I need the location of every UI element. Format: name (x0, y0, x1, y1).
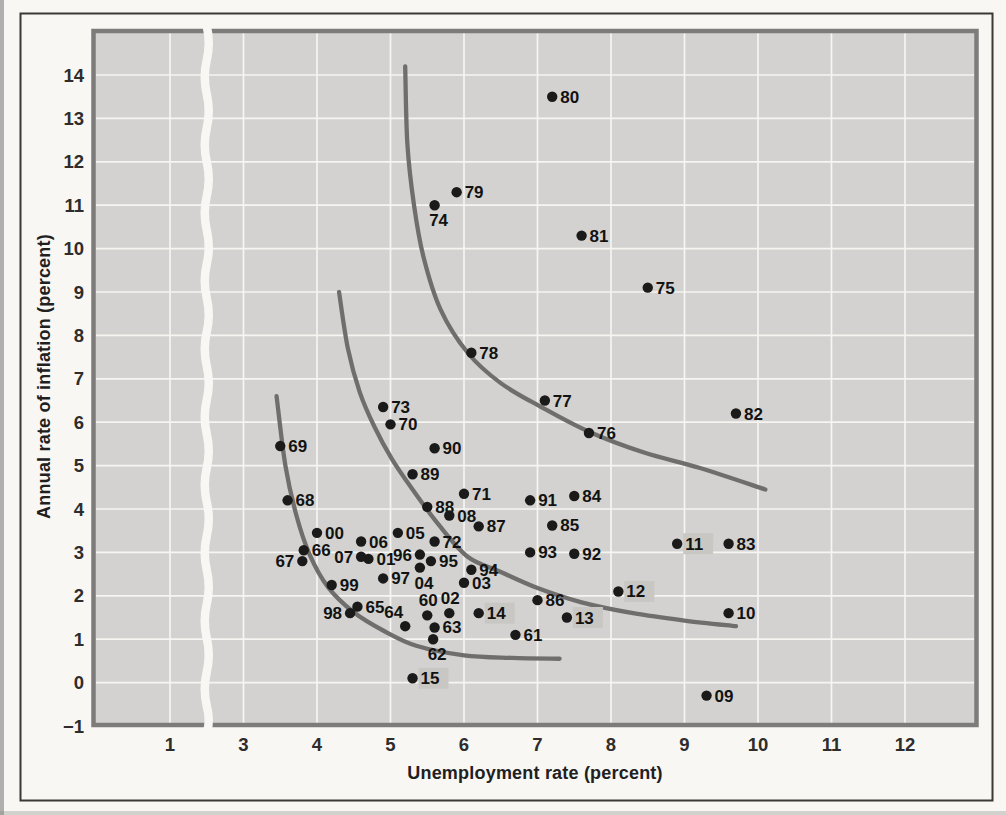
point-label-85: 85 (560, 516, 579, 535)
y-tick-4: 4 (74, 499, 85, 520)
y-tick-2: 2 (74, 585, 84, 606)
point-label-02: 02 (441, 589, 460, 608)
y-tick-3: 3 (74, 542, 84, 563)
data-point-90 (429, 443, 439, 453)
point-label-15: 15 (421, 669, 440, 688)
data-point-62 (428, 634, 438, 644)
point-label-96: 96 (393, 546, 412, 565)
data-point-67 (297, 556, 307, 566)
data-point-04 (415, 562, 425, 572)
point-label-72: 72 (443, 533, 462, 552)
data-point-81 (576, 230, 586, 240)
point-label-66: 66 (312, 541, 331, 560)
point-label-98: 98 (323, 604, 342, 623)
point-label-04: 04 (414, 574, 433, 593)
y-tick-5: 5 (74, 455, 84, 476)
data-point-11 (672, 539, 682, 549)
data-point-85 (547, 520, 557, 530)
y-tick-9: 9 (74, 282, 84, 303)
point-label-65: 65 (365, 598, 384, 617)
data-point-71 (459, 489, 469, 499)
point-label-90: 90 (443, 439, 462, 458)
data-point-66 (299, 545, 309, 555)
point-label-83: 83 (737, 535, 756, 554)
data-point-10 (723, 608, 733, 618)
point-label-08: 08 (457, 507, 476, 526)
data-point-80 (547, 92, 557, 102)
data-point-96 (415, 549, 425, 559)
data-point-64 (400, 621, 410, 631)
y-tick-11: 11 (64, 195, 84, 216)
data-point-13 (562, 612, 572, 622)
x-tick-1: 1 (165, 734, 175, 755)
point-label-69: 69 (288, 437, 307, 456)
point-label-80: 80 (560, 88, 579, 107)
x-tick-4: 4 (312, 734, 323, 755)
data-point-92 (569, 549, 579, 559)
data-point-83 (723, 539, 733, 549)
y-tick-6: 6 (74, 412, 84, 433)
y-tick-10: 10 (63, 238, 84, 259)
y-tick-−1: −1 (63, 716, 84, 737)
point-label-95: 95 (439, 552, 458, 571)
y-tick-14: 14 (63, 65, 84, 86)
data-point-93 (525, 547, 535, 557)
data-point-77 (540, 395, 550, 405)
point-label-01: 01 (376, 550, 395, 569)
data-point-02 (444, 608, 454, 618)
point-label-74: 74 (429, 211, 448, 230)
y-tick-8: 8 (74, 325, 84, 346)
phillips-curve-scatter-chart: 14131211109876543210−1134567891011126061… (0, 0, 1006, 815)
x-tick-10: 10 (748, 734, 769, 755)
x-tick-6: 6 (459, 734, 469, 755)
point-label-60: 60 (419, 591, 438, 610)
data-point-95 (426, 556, 436, 566)
data-point-15 (407, 673, 417, 683)
data-point-06 (356, 536, 366, 546)
x-tick-11: 11 (822, 734, 842, 755)
y-tick-0: 0 (74, 672, 84, 693)
point-label-11: 11 (685, 535, 703, 554)
point-label-05: 05 (406, 524, 425, 543)
data-point-05 (393, 528, 403, 538)
point-label-89: 89 (421, 465, 440, 484)
point-label-97: 97 (391, 569, 410, 588)
point-label-00: 00 (325, 524, 344, 543)
data-point-63 (429, 622, 439, 632)
data-point-09 (701, 690, 711, 700)
data-point-12 (613, 586, 623, 596)
data-point-78 (466, 348, 476, 358)
y-tick-12: 12 (63, 151, 84, 172)
point-label-87: 87 (487, 517, 506, 536)
point-label-64: 64 (384, 603, 403, 622)
data-point-82 (731, 408, 741, 418)
x-tick-5: 5 (385, 734, 395, 755)
data-point-61 (510, 630, 520, 640)
point-label-61: 61 (523, 626, 542, 645)
x-tick-7: 7 (532, 734, 542, 755)
point-label-84: 84 (582, 487, 601, 506)
data-point-60 (422, 610, 432, 620)
point-label-92: 92 (582, 545, 601, 564)
textbook-figure-page: 14131211109876543210−1134567891011126061… (0, 0, 1006, 815)
data-point-75 (643, 282, 653, 292)
data-point-91 (525, 495, 535, 505)
x-axis-break-squiggle (205, 26, 209, 734)
point-label-86: 86 (546, 591, 565, 610)
point-label-06: 06 (369, 533, 388, 552)
data-point-84 (569, 491, 579, 501)
data-point-79 (451, 187, 461, 197)
scan-edge-bottom (0, 811, 1006, 815)
point-label-70: 70 (399, 415, 418, 434)
data-point-97 (378, 573, 388, 583)
point-label-03: 03 (472, 574, 491, 593)
x-tick-12: 12 (895, 734, 916, 755)
data-point-07 (356, 552, 366, 562)
scan-edge-left (0, 0, 4, 815)
point-label-77: 77 (553, 392, 572, 411)
point-label-73: 73 (391, 398, 410, 417)
data-point-89 (407, 469, 417, 479)
y-tick-7: 7 (74, 368, 84, 389)
point-label-75: 75 (656, 279, 675, 298)
data-point-99 (327, 580, 337, 590)
